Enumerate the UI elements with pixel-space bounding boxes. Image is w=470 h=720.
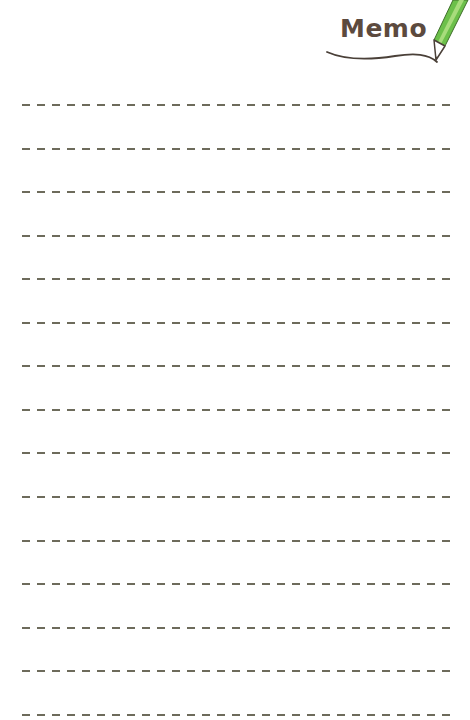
memo-line[interactable] (22, 235, 450, 237)
memo-line[interactable] (22, 322, 450, 324)
memo-line[interactable] (22, 278, 450, 280)
memo-line[interactable] (22, 540, 450, 542)
memo-line[interactable] (22, 627, 450, 629)
memo-line[interactable] (22, 496, 450, 498)
memo-line[interactable] (22, 409, 450, 411)
memo-line[interactable] (22, 670, 450, 672)
memo-line[interactable] (22, 714, 450, 716)
memo-line[interactable] (22, 104, 450, 106)
memo-lines (0, 0, 470, 720)
memo-line[interactable] (22, 191, 450, 193)
memo-line[interactable] (22, 583, 450, 585)
memo-line[interactable] (22, 452, 450, 454)
memo-line[interactable] (22, 365, 450, 367)
memo-line[interactable] (22, 148, 450, 150)
